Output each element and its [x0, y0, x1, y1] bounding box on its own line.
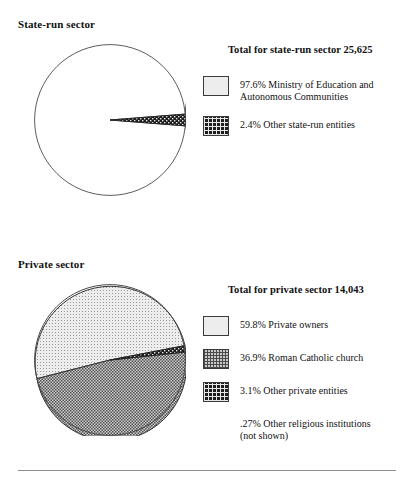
legend-label-main: 3.1% Other private entities — [240, 385, 348, 396]
legend-label-main: 2.4% Other state-run entities — [240, 119, 355, 130]
legend-item: 3.1% Other private entities — [203, 382, 403, 403]
bottom-divider — [18, 470, 396, 471]
legend-swatch-dark-check-icon — [203, 116, 229, 136]
legend-swatch-medium-check-icon — [203, 349, 229, 369]
legend-label-main: 36.9% Roman Catholic church — [240, 352, 363, 363]
total-label-private: Total for private sector 14,043 — [228, 284, 403, 295]
legend-item: 36.9% Roman Catholic church — [203, 349, 403, 370]
legend-label: .27% Other religious institutions (not s… — [240, 415, 371, 443]
pie-chart-figure: State-run sector — [0, 0, 410, 486]
legend-label-sub: (not shown) — [240, 430, 371, 442]
legend-label-main: .27% Other religious institutions — [240, 418, 371, 429]
legend-swatch-none-placeholder — [203, 415, 229, 435]
legend-private: Total for private sector 14,043 59.8% Pr… — [203, 284, 403, 455]
section-title-private: Private sector — [18, 258, 84, 270]
section-state-run: State-run sector — [0, 0, 410, 240]
legend-label-main: 97.6% Ministry of Education and — [240, 79, 374, 90]
section-title-state-run: State-run sector — [18, 18, 95, 30]
legend-swatch-dark-check-icon — [203, 382, 229, 402]
pie-slice-other-state-run-entities — [110, 114, 186, 126]
legend-item: 2.4% Other state-run entities — [203, 116, 403, 137]
legend-state-run: Total for state-run sector 25,625 97.6% … — [203, 44, 403, 149]
legend-list-state-run: 97.6% Ministry of Education and Autonomo… — [203, 76, 403, 137]
legend-item-not-shown: .27% Other religious institutions (not s… — [203, 415, 403, 443]
pie-svg-state-run — [34, 44, 186, 196]
legend-label-sub: Autonomous Communities — [240, 91, 374, 103]
legend-label: 36.9% Roman Catholic church — [240, 349, 363, 364]
total-label-state-run: Total for state-run sector 25,625 — [228, 44, 403, 55]
legend-item: 59.8% Private owners — [203, 316, 403, 337]
legend-swatch-light-dot-icon — [203, 76, 229, 96]
legend-label: 59.8% Private owners — [240, 316, 328, 331]
pie-chart-state-run — [34, 44, 186, 196]
legend-list-private: 59.8% Private owners 36.9% Roman Catholi… — [203, 316, 403, 443]
legend-label: 97.6% Ministry of Education and Autonomo… — [240, 76, 374, 104]
pie-svg-private — [34, 284, 186, 436]
section-private: Private sector — [0, 240, 410, 465]
legend-label: 2.4% Other state-run entities — [240, 116, 355, 131]
pie-chart-private — [34, 284, 186, 436]
legend-label: 3.1% Other private entities — [240, 382, 348, 397]
legend-item: 97.6% Ministry of Education and Autonomo… — [203, 76, 403, 104]
legend-swatch-light-dot-icon — [203, 316, 229, 336]
legend-label-main: 59.8% Private owners — [240, 319, 328, 330]
